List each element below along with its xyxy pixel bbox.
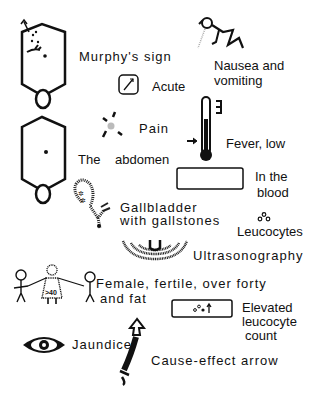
label-the: The bbox=[78, 152, 100, 167]
abdomen-icon bbox=[18, 113, 78, 213]
svg-text:✲: ✲ bbox=[78, 190, 84, 197]
label-murphys-sign: Murphy's sign bbox=[79, 49, 172, 64]
abdomen-murphy-icon bbox=[18, 18, 78, 118]
label-pain: Pain bbox=[139, 121, 169, 136]
label-cause-effect: Cause-effect arrow bbox=[151, 353, 279, 368]
label-in-the-blood-line1: In the bbox=[255, 169, 288, 184]
leucocytes-icon bbox=[257, 212, 271, 222]
label-female-line1: Female, fertile, over forty bbox=[96, 276, 267, 291]
label-elevated-line1: Elevated bbox=[242, 300, 293, 315]
label-fever: Fever, low bbox=[226, 136, 285, 151]
female-fertile-family-icon: >40 bbox=[12, 258, 92, 318]
svg-text:>40: >40 bbox=[45, 289, 57, 296]
nausea-vomiting-icon bbox=[193, 10, 263, 55]
label-nausea-line1: Nausea and bbox=[214, 58, 284, 73]
label-abdomen: abdomen bbox=[115, 152, 169, 167]
label-acute: Acute bbox=[152, 79, 185, 94]
label-nausea-line2: vomiting bbox=[214, 73, 262, 88]
eye-jaundice-icon bbox=[21, 335, 67, 355]
acute-icon bbox=[118, 74, 140, 96]
cause-effect-arrow-icon bbox=[117, 315, 147, 387]
label-ultrasonography: Ultrasonography bbox=[193, 248, 303, 263]
thermometer-icon bbox=[185, 95, 225, 165]
label-leucocytes: Leucocytes bbox=[237, 224, 303, 239]
svg-text:✲: ✲ bbox=[80, 197, 86, 204]
pain-icon bbox=[96, 111, 126, 141]
label-in-the-blood-line2: blood bbox=[257, 185, 289, 200]
blood-box-icon bbox=[176, 167, 246, 191]
label-elevated-line3: count bbox=[245, 328, 277, 343]
elevated-leucocyte-box-icon bbox=[171, 299, 235, 319]
label-elevated-line2: leucocyte bbox=[242, 314, 297, 329]
ultrasonography-icon bbox=[120, 237, 190, 263]
label-gallbladder-line2: with gallstones bbox=[120, 213, 220, 228]
gallbladder-icon: ✲ ✲ bbox=[70, 178, 120, 233]
label-female-line2: and fat bbox=[100, 291, 147, 306]
